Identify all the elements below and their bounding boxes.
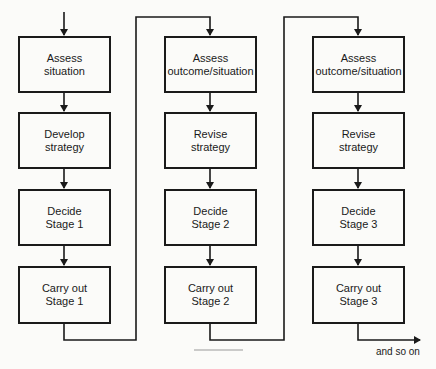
box-decide-stage-3: Decide Stage 3 xyxy=(312,189,405,246)
box-carry-out-stage-2: Carry out Stage 2 xyxy=(164,266,257,324)
box-decide-stage-2: Decide Stage 2 xyxy=(164,189,257,246)
box-label: Decide Stage 3 xyxy=(340,205,378,231)
box-label: Assess situation xyxy=(44,52,85,78)
box-carry-out-stage-3: Carry out Stage 3 xyxy=(312,266,405,324)
box-label: Decide Stage 1 xyxy=(46,205,84,231)
box-assess-outcome-2: Assess outcome/situation xyxy=(164,36,257,93)
box-label: Revise strategy xyxy=(191,128,230,154)
continuation-label: and so on xyxy=(376,346,420,357)
box-label: Revise strategy xyxy=(339,128,378,154)
box-label: Assess outcome/situation xyxy=(315,52,401,78)
box-assess-situation: Assess situation xyxy=(18,36,111,93)
box-label: Develop strategy xyxy=(44,128,84,154)
box-label: Carry out Stage 1 xyxy=(42,282,87,308)
box-carry-out-stage-1: Carry out Stage 1 xyxy=(18,266,111,324)
box-label: Assess outcome/situation xyxy=(167,52,253,78)
box-develop-strategy: Develop strategy xyxy=(18,112,111,169)
box-label: Decide Stage 2 xyxy=(192,205,230,231)
box-revise-strategy-3: Revise strategy xyxy=(312,112,405,169)
box-decide-stage-1: Decide Stage 1 xyxy=(18,189,111,246)
box-revise-strategy-2: Revise strategy xyxy=(164,112,257,169)
box-label: Carry out Stage 2 xyxy=(188,282,233,308)
box-assess-outcome-3: Assess outcome/situation xyxy=(312,36,405,93)
box-label: Carry out Stage 3 xyxy=(336,282,381,308)
